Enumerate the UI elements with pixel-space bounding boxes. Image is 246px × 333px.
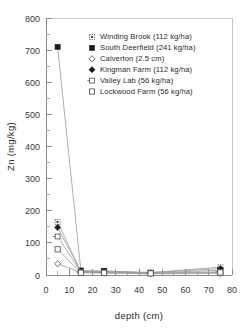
- x-tick-label: 0: [43, 285, 48, 295]
- legend-item-label: Kingman Farm (112 kg/ha): [100, 65, 193, 74]
- legend-item[interactable]: Valley Lab (56 kg/ha): [87, 76, 173, 85]
- y-tick-label: 200: [25, 206, 40, 216]
- legend-item-label: Lockwood Farm (56 kg/ha): [100, 87, 193, 96]
- data-point-marker: [218, 270, 223, 275]
- y-tick-label: 0: [35, 271, 40, 281]
- x-tick-label: 50: [157, 285, 167, 295]
- data-point-marker: [89, 45, 94, 50]
- x-tick-label: 10: [64, 285, 74, 295]
- data-point-marker: [55, 261, 61, 267]
- y-tick-label: 600: [25, 78, 40, 88]
- data-point-marker: [89, 67, 95, 73]
- y-axis-ticks: [46, 18, 52, 275]
- legend-item-label: Valley Lab (56 kg/ha): [100, 76, 174, 85]
- y-tick-label: 500: [25, 110, 40, 120]
- legend-item-label: Winding Brook (112 kg/ha): [100, 32, 192, 41]
- x-tick-label: 70: [204, 285, 214, 295]
- chart-legend: Winding Brook (112 kg/ha)South Deerfield…: [87, 32, 196, 96]
- x-tick-label: 30: [111, 285, 121, 295]
- data-point-marker: [89, 89, 94, 94]
- data-point-marker: [55, 219, 60, 224]
- x-axis-title: depth (cm): [115, 310, 163, 321]
- chart-svg: 800 700 600 500 400 300 200 100 0: [0, 0, 246, 333]
- x-tick-label: 60: [180, 285, 190, 295]
- y-tick-label: 100: [25, 238, 40, 248]
- legend-item[interactable]: South Deerfield (241 kg/ha): [89, 43, 196, 52]
- legend-item[interactable]: Winding Brook (112 kg/ha): [90, 32, 193, 41]
- data-point-marker: [148, 271, 153, 276]
- legend-item-label: South Deerfield (241 kg/ha): [100, 43, 196, 52]
- x-tick-label: 20: [87, 285, 97, 295]
- x-tick-label: 80: [227, 285, 237, 295]
- y-tick-labels: 800 700 600 500 400 300 200 100 0: [25, 14, 40, 281]
- y-axis-title: Zn (mg/kg): [5, 122, 16, 171]
- x-tick-labels: 0 10 20 30 40 50 60 70 80: [43, 285, 237, 295]
- data-point-marker: [55, 247, 60, 252]
- legend-item[interactable]: Kingman Farm (112 kg/ha): [89, 65, 193, 74]
- data-point-marker: [102, 270, 107, 275]
- data-point-marker: [55, 224, 61, 230]
- legend-item[interactable]: Lockwood Farm (56 kg/ha): [89, 87, 193, 96]
- series-4: [53, 234, 223, 276]
- data-point-marker: [53, 234, 60, 239]
- zn-depth-chart-figure: 800 700 600 500 400 300 200 100 0: [0, 0, 246, 333]
- data-point-marker: [90, 35, 95, 40]
- y-tick-label: 800: [25, 14, 40, 24]
- data-point-marker: [55, 44, 60, 49]
- data-point-marker: [87, 78, 94, 83]
- legend-item[interactable]: Calverton (2.5 cm): [89, 54, 165, 63]
- legend-item-label: Calverton (2.5 cm): [100, 54, 165, 63]
- y-tick-label: 400: [25, 142, 40, 152]
- y-tick-label: 700: [25, 46, 40, 56]
- data-point-marker: [78, 270, 83, 275]
- data-point-marker: [89, 56, 95, 62]
- x-tick-label: 40: [134, 285, 144, 295]
- y-tick-label: 300: [25, 174, 40, 184]
